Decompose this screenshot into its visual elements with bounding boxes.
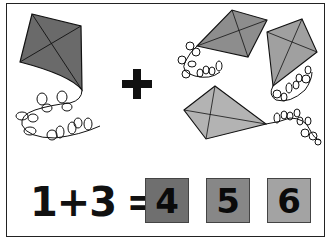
answer-option-4[interactable]: 4 — [145, 178, 189, 223]
answer-option-6[interactable]: 6 — [267, 178, 311, 223]
operator: + — [57, 182, 90, 222]
right-operand: 3 — [89, 182, 116, 222]
kite-icon — [184, 86, 321, 145]
answer-option-5[interactable]: 5 — [206, 178, 250, 223]
kite-icon — [16, 14, 100, 140]
kite-icon — [178, 10, 267, 78]
plus-icon — [122, 69, 152, 99]
equation: 1 + 3 = — [30, 178, 160, 226]
left-operand: 1 — [30, 182, 57, 222]
kite-icon — [267, 19, 317, 101]
